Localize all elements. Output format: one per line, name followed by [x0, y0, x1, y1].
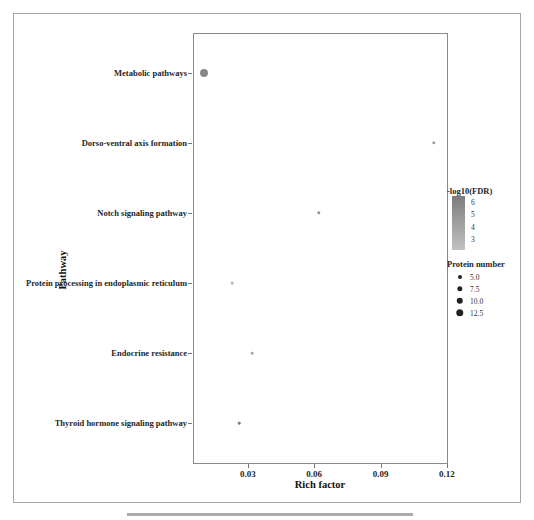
y-axis-tick-mark: [188, 423, 192, 424]
y-axis-tick-mark: [188, 73, 192, 74]
x-axis-tick-mark: [248, 464, 249, 468]
x-axis-tick-label: 0.03: [240, 469, 256, 479]
data-point: [200, 69, 208, 77]
size-legend-label: 10.0: [470, 297, 483, 306]
color-legend-tick-label: 3: [471, 234, 475, 243]
y-axis-tick-mark: [188, 143, 192, 144]
size-legend-label: 7.5: [470, 285, 479, 294]
size-legend-dot: [458, 275, 462, 279]
enrichment-figure: Pathway Rich factor Metabolic pathwaysDo…: [0, 0, 534, 520]
pathway-label: Endocrine resistance: [111, 348, 187, 358]
pathway-label: Notch signaling pathway: [97, 208, 187, 218]
color-legend-gradient-bar: [452, 196, 465, 250]
color-legend-tick-label: 5: [471, 210, 475, 219]
x-axis-tick-mark: [381, 464, 382, 468]
pathway-label: Protein processing in endoplasmic reticu…: [26, 278, 187, 288]
x-axis-title: Rich factor: [295, 479, 345, 490]
data-point: [251, 352, 254, 355]
color-legend-tick-label: 4: [471, 222, 475, 231]
y-axis-tick-mark: [188, 213, 192, 214]
x-axis-tick-label: 0.09: [373, 469, 389, 479]
size-legend-label: 12.5: [470, 309, 483, 318]
data-point: [231, 282, 234, 285]
cut-off-caption-fragment: [127, 513, 413, 516]
x-axis-tick-mark: [447, 464, 448, 468]
x-axis-tick-mark: [314, 464, 315, 468]
pathway-label: Thyroid hormone signaling pathway: [55, 418, 187, 428]
y-axis-tick-mark: [188, 353, 192, 354]
x-axis-tick-label: 0.06: [306, 469, 322, 479]
pathway-label: Dorso-ventral axis formation: [82, 138, 187, 148]
plot-area: [193, 33, 448, 464]
size-legend-title: Protein number: [447, 259, 505, 269]
size-legend-label: 5.0: [470, 273, 479, 282]
data-point: [238, 422, 241, 425]
x-axis-tick-label: 0.12: [439, 469, 455, 479]
color-legend-title: -log10(FDR): [447, 186, 492, 196]
y-axis-tick-mark: [188, 283, 192, 284]
pathway-label: Metabolic pathways: [114, 68, 187, 78]
color-legend-tick-label: 6: [471, 198, 475, 207]
